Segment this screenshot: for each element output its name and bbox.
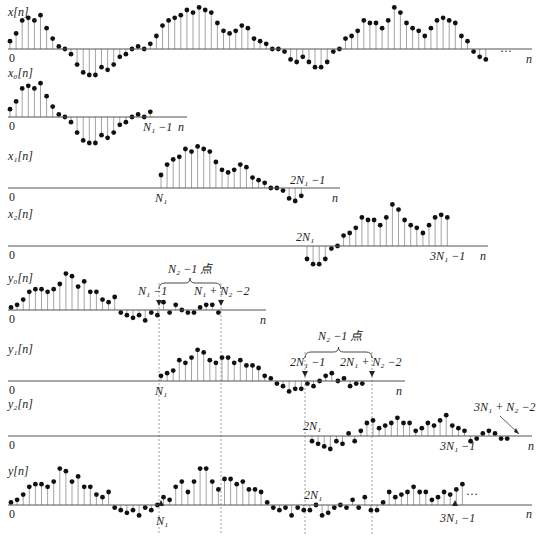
- axis-annotation: n: [396, 384, 402, 398]
- sample-dot: [240, 479, 245, 484]
- sample-dot: [395, 415, 400, 420]
- axis-annotation: n: [178, 120, 184, 134]
- sample-dot: [201, 147, 206, 152]
- sample-dot: [319, 65, 324, 70]
- sample-dot: [14, 31, 19, 36]
- sample-dot: [460, 482, 465, 487]
- sample-dot: [368, 21, 373, 26]
- sample-dot: [371, 418, 376, 423]
- sample-dot: [405, 490, 410, 495]
- sample-dot: [111, 130, 116, 135]
- panel-x1: x₁[n]0N₁2N₁ −1n: [7, 144, 340, 205]
- sample-dot: [416, 28, 421, 33]
- sample-dot: [340, 441, 345, 446]
- sample-dot: [131, 508, 136, 513]
- axis-annotation: n: [480, 249, 486, 263]
- signal-label: x[n]: [7, 5, 29, 19]
- sample-dot: [398, 10, 403, 15]
- panel-y1: y₁[n]0N₁2N₁ −12N₁ + N₂ −2N₂ −1 点n: [7, 329, 405, 398]
- sample-dot: [402, 218, 407, 223]
- sample-dot: [421, 231, 426, 236]
- sample-dot: [39, 482, 44, 487]
- sample-dot: [221, 28, 226, 33]
- sample-dot: [220, 167, 225, 172]
- sample-dot: [369, 508, 374, 513]
- sample-dot: [480, 431, 485, 436]
- up-arrow-marker: [452, 500, 458, 506]
- sample-dot: [57, 466, 62, 471]
- sample-dot: [358, 428, 363, 433]
- sample-dot: [161, 495, 166, 500]
- sample-dot: [322, 444, 327, 449]
- sample-dot: [210, 302, 215, 307]
- sample-dot: [117, 122, 122, 127]
- sample-dot: [167, 310, 172, 315]
- sample-dot: [414, 225, 419, 230]
- sample-dot: [50, 36, 55, 41]
- signal-label: x₁[n]: [7, 149, 33, 163]
- sample-dot: [70, 479, 75, 484]
- sample-dot: [149, 310, 154, 315]
- sample-dot: [264, 41, 269, 46]
- sample-dot: [347, 231, 352, 236]
- sample-dot: [407, 421, 412, 426]
- axis-annotation: N₁: [154, 191, 167, 205]
- sample-dot: [75, 130, 80, 135]
- sample-dot: [228, 477, 233, 482]
- sample-dot: [159, 373, 164, 378]
- sample-dot: [353, 225, 358, 230]
- sample-dot: [8, 107, 13, 112]
- sample-dot: [271, 505, 276, 510]
- sample-dot: [216, 310, 221, 315]
- sample-dot: [346, 431, 351, 436]
- axis-annotation: 0: [9, 51, 15, 65]
- sample-dot: [389, 421, 394, 426]
- sample-dot: [186, 310, 191, 315]
- sample-dot: [195, 347, 200, 352]
- sample-dot: [427, 223, 432, 228]
- sample-dot: [380, 26, 385, 31]
- sample-dot: [21, 297, 26, 302]
- sample-dot: [450, 423, 455, 428]
- sample-dot: [331, 49, 336, 54]
- sample-dot: [287, 389, 292, 394]
- sample-dot: [172, 15, 177, 20]
- sample-dot: [361, 18, 366, 23]
- sample-dot: [70, 274, 75, 279]
- sample-dot: [149, 508, 154, 513]
- sample-dot: [265, 500, 270, 505]
- sample-dot: [209, 10, 214, 15]
- sample-dot: [238, 162, 243, 167]
- signal-label: y₁[n]: [7, 342, 33, 356]
- sample-dot: [57, 282, 62, 287]
- sample-dot: [99, 65, 104, 70]
- sample-dot: [375, 508, 380, 513]
- sample-dot: [299, 386, 304, 391]
- sample-dot: [118, 508, 123, 513]
- sample-dot: [348, 384, 353, 389]
- axis-annotation: ···: [466, 487, 478, 501]
- pointer-arrow-icon: [514, 428, 519, 434]
- sample-dot: [167, 497, 172, 502]
- sample-dot: [27, 484, 32, 489]
- sample-dot: [471, 49, 476, 54]
- sample-dot: [125, 510, 130, 515]
- sample-dot: [56, 112, 61, 117]
- sample-dot: [227, 31, 232, 36]
- sample-dot: [356, 505, 361, 510]
- sample-dot: [69, 52, 74, 57]
- sample-dot: [326, 510, 331, 515]
- sample-dot: [350, 497, 355, 502]
- sample-dot: [381, 500, 386, 505]
- sample-dot: [439, 212, 444, 217]
- sample-dot: [220, 355, 225, 360]
- sample-dot: [161, 300, 166, 305]
- sample-dot: [396, 207, 401, 212]
- sample-dot: [177, 358, 182, 363]
- sample-dot: [311, 262, 316, 267]
- sample-dot: [386, 18, 391, 23]
- sample-dot: [408, 223, 413, 228]
- sample-dot: [222, 477, 227, 482]
- sample-dot: [198, 305, 203, 310]
- sample-dot: [233, 28, 238, 33]
